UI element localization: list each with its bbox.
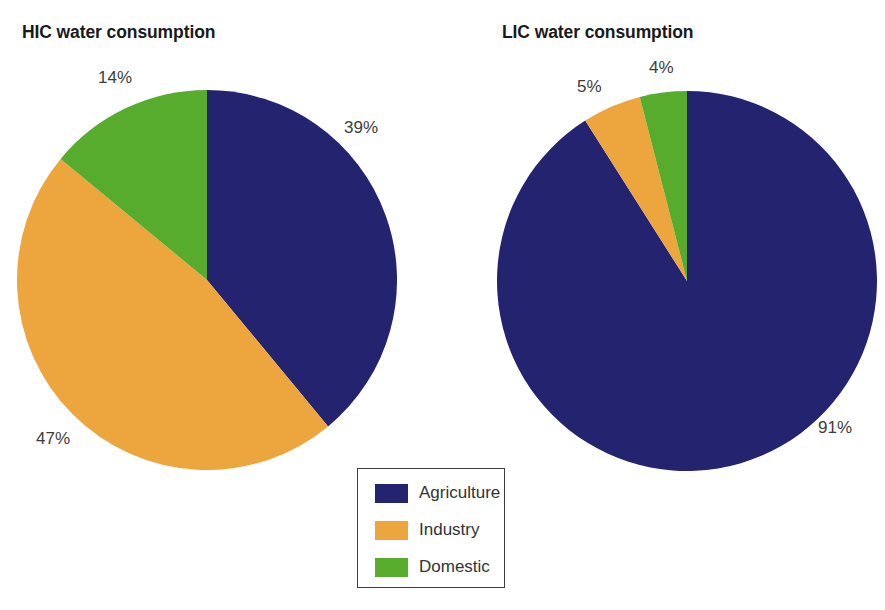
legend-item-agriculture: Agriculture [375,483,500,503]
pie-chart-hic [17,90,397,470]
legend-swatch-industry [375,521,408,540]
figure-canvas: HIC water consumption LIC water consumpt… [0,0,885,610]
pie-hic-svg [17,90,397,470]
chart-title-lic: LIC water consumption [502,22,693,43]
slice-label-lic-domestic: 4% [649,58,674,78]
pie-lic-slice-agriculture [497,91,877,471]
slice-label-hic-domestic: 14% [98,68,132,88]
pie-lic-svg [497,91,877,471]
slice-label-hic-industry: 47% [36,429,70,449]
legend-label-industry: Industry [419,520,479,540]
legend-swatch-domestic [375,558,408,577]
legend-label-domestic: Domestic [419,557,490,577]
pie-chart-lic [497,91,877,471]
legend-item-domestic: Domestic [375,557,490,577]
legend-item-industry: Industry [375,520,479,540]
legend: Agriculture Industry Domestic [357,468,505,588]
slice-label-lic-agriculture: 91% [818,418,852,438]
legend-swatch-agriculture [375,484,408,503]
slice-label-hic-agriculture: 39% [344,118,378,138]
slice-label-lic-industry: 5% [577,77,602,97]
chart-title-hic: HIC water consumption [22,22,215,43]
legend-label-agriculture: Agriculture [419,483,500,503]
